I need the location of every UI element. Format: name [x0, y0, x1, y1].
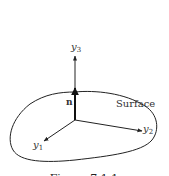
surface-normal-diagram: y3 n Surface y2 y1 Figure 7.1.1	[0, 0, 169, 176]
y3-label: y3	[70, 41, 81, 54]
y1-axis	[44, 120, 75, 141]
y1-label: y1	[32, 139, 43, 152]
y2-label: y2	[142, 123, 153, 136]
surface-label: Surface	[116, 98, 155, 109]
figure-caption: Figure 7.1.1	[50, 172, 119, 176]
normal-label: n	[66, 97, 73, 107]
y2-axis	[75, 120, 142, 131]
